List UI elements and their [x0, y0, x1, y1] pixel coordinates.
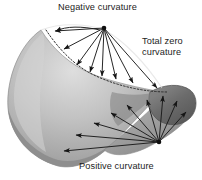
lower-vertex-point: [157, 140, 162, 145]
total-zero-curvature-label-line1: Total zero: [142, 36, 183, 46]
saddle-curvature-figure: Negative curvature Total zerocurvature P…: [0, 0, 202, 180]
total-zero-curvature-label: Total zerocurvature: [142, 36, 183, 58]
positive-curvature-label: Positive curvature: [79, 161, 154, 172]
total-zero-curvature-label-line2: curvature: [142, 47, 181, 57]
upper-vertex-point: [102, 26, 107, 31]
negative-curvature-label: Negative curvature: [58, 2, 137, 13]
saddle-surface-diagram: [0, 0, 202, 180]
